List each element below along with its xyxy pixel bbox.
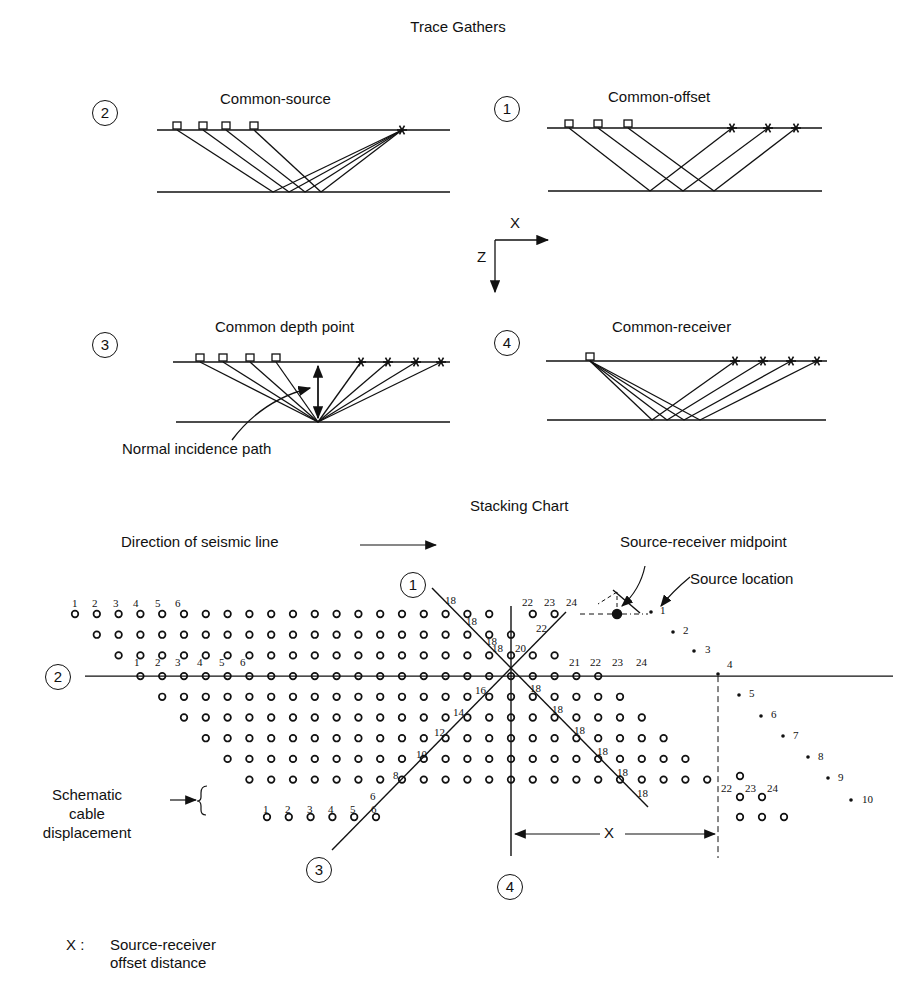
- source-number: 3: [705, 643, 711, 655]
- direction-label: Direction of seismic line: [121, 533, 279, 550]
- receiver-number-row4-right: 21: [569, 656, 580, 668]
- legend-symbol: X :: [66, 936, 84, 953]
- source-location-label: Source location: [690, 570, 793, 587]
- fold-label-cdp: 12: [434, 726, 445, 738]
- fold-label-common-offset: 18: [445, 594, 456, 606]
- fold-label-cdp: 20: [515, 642, 526, 654]
- receiver-number-row4: 4: [197, 656, 203, 668]
- receiver-number-top: 3: [113, 597, 119, 609]
- gather-marker-2: 2: [92, 100, 118, 126]
- midpoint-label: Source-receiver midpoint: [620, 533, 787, 550]
- gather-label-cdp: Common depth point: [215, 318, 354, 335]
- chart-marker-1: 1: [400, 572, 426, 598]
- fold-label-common-offset: 18: [574, 724, 585, 736]
- fold-label-cdp: 14: [453, 706, 464, 718]
- cable-label-2: cable: [69, 805, 105, 822]
- receiver-number-bottom-right: 23: [745, 782, 756, 794]
- gather-label-common-offset: Common-offset: [608, 88, 710, 105]
- source-number: 5: [749, 687, 755, 699]
- receiver-number-bottom-right: 24: [767, 782, 778, 794]
- receiver-number-top: 4: [133, 597, 139, 609]
- receiver-number-row4: 3: [175, 656, 181, 668]
- receiver-number-bottom-right: 22: [721, 782, 732, 794]
- fold-label-cdp: 8: [393, 769, 399, 781]
- receiver-number-row4: 2: [155, 656, 161, 668]
- fold-label-common-offset: 18: [466, 615, 477, 627]
- fold-label-cdp: 10: [416, 748, 427, 760]
- source-number: 8: [818, 750, 824, 762]
- receiver-number-bottom: 6: [371, 803, 377, 815]
- receiver-number-top: 2: [92, 597, 98, 609]
- fold-label-common-offset: 18: [617, 766, 628, 778]
- stacking-chart-title: Stacking Chart: [470, 497, 568, 514]
- gather-label-common-source: Common-source: [220, 90, 331, 107]
- receiver-number-row4-right: 23: [612, 656, 623, 668]
- legend-line2: offset distance: [110, 954, 206, 971]
- source-number: 10: [862, 793, 873, 805]
- receiver-number-row4: 5: [219, 656, 225, 668]
- receiver-number-row4-right: 22: [590, 656, 601, 668]
- source-number: 1: [660, 604, 666, 616]
- receiver-number-top-right: 24: [566, 596, 577, 608]
- gather-marker-1: 1: [494, 96, 520, 122]
- fold-label-cdp: 18: [492, 642, 503, 654]
- fold-label-common-offset: 18: [530, 682, 541, 694]
- receiver-number-top: 1: [72, 597, 78, 609]
- fold-label-cdp: 16: [475, 684, 486, 696]
- receiver-number-row4: 1: [134, 656, 140, 668]
- seismic-acquisition-figure: Trace Gathers 2 Common-source 1 Common-o…: [0, 0, 917, 987]
- gather-marker-3: 3: [92, 332, 118, 358]
- fold-label-common-offset: 18: [552, 703, 563, 715]
- axis-x-label: X: [510, 214, 520, 231]
- receiver-number-bottom: 5: [350, 803, 356, 815]
- chart-marker-2: 2: [45, 664, 71, 690]
- fold-label-cdp: 6: [370, 790, 376, 802]
- fold-label-common-offset: 18: [597, 745, 608, 757]
- normal-incidence-label: Normal incidence path: [122, 440, 271, 457]
- offset-x-label: X: [604, 824, 614, 841]
- receiver-number-bottom: 4: [328, 803, 334, 815]
- receiver-number-bottom: 2: [285, 803, 291, 815]
- receiver-number-top: 5: [155, 597, 161, 609]
- gather-marker-4: 4: [494, 330, 520, 356]
- receiver-number-bottom: 3: [307, 803, 313, 815]
- source-number: 6: [771, 708, 777, 720]
- receiver-number-row4: 6: [240, 656, 246, 668]
- gather-label-common-receiver: Common-receiver: [612, 318, 731, 335]
- source-number: 9: [838, 771, 844, 783]
- receiver-number-top-right: 23: [544, 596, 555, 608]
- source-number: 2: [683, 624, 689, 636]
- receiver-number-row4-right: 24: [636, 656, 647, 668]
- chart-marker-3: 3: [306, 857, 332, 883]
- legend-line1: Source-receiver: [110, 936, 216, 953]
- receiver-number-top: 6: [175, 597, 181, 609]
- receiver-number-bottom: 1: [263, 803, 269, 815]
- fold-label-common-offset: 18: [637, 787, 648, 799]
- axis-z-label: Z: [477, 248, 486, 265]
- chart-marker-4: 4: [497, 874, 523, 900]
- diagram-drawing: [0, 0, 917, 987]
- source-number: 7: [793, 729, 799, 741]
- cable-label-3: displacement: [43, 824, 131, 841]
- fold-label-cdp: 22: [536, 622, 547, 634]
- source-number: 4: [727, 658, 733, 670]
- receiver-number-top-right: 22: [522, 596, 533, 608]
- cable-label-1: Schematic: [52, 786, 122, 803]
- figure-title: Trace Gathers: [410, 18, 505, 35]
